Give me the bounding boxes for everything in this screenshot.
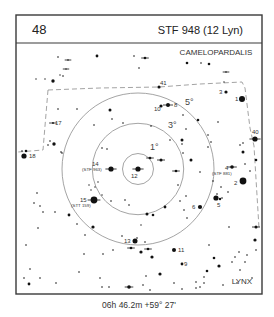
star-icon — [68, 214, 71, 217]
star-icon — [249, 170, 251, 172]
star-icon — [207, 146, 209, 148]
star-icon — [29, 268, 31, 270]
star-icon — [57, 108, 59, 110]
star-icon — [216, 193, 218, 195]
star-icon — [76, 223, 78, 225]
star-icon — [253, 238, 256, 241]
star-icon — [221, 197, 223, 199]
star-designation: (STF 881) — [212, 171, 232, 176]
labeled-stars: 1234(STF 881)56891011121314(STF 963)15(S… — [21, 80, 260, 267]
star-icon — [246, 254, 248, 256]
star-icon — [183, 209, 185, 211]
star-icon — [185, 195, 187, 197]
star-icon — [217, 264, 220, 267]
star-icon — [224, 90, 227, 93]
star-icon — [121, 235, 123, 237]
star-icon — [213, 195, 218, 200]
star-icon — [199, 171, 201, 173]
star-label: 18 — [29, 153, 36, 159]
star-icon — [49, 140, 51, 142]
star-icon — [255, 159, 258, 162]
star-icon — [28, 283, 31, 286]
chart-number: 48 — [32, 22, 46, 37]
star-icon — [227, 191, 229, 193]
star-icon — [109, 109, 112, 112]
star-icon — [136, 237, 138, 239]
ring-label: 3° — [168, 120, 177, 130]
star-icon — [206, 270, 209, 273]
star-icon — [234, 256, 236, 258]
star-icon — [91, 225, 94, 228]
star-icon — [96, 55, 99, 58]
star-designation: (STT 159) — [71, 203, 91, 208]
star-icon — [76, 108, 78, 110]
star-icon — [60, 151, 62, 153]
star-icon — [223, 81, 224, 82]
star-icon — [88, 184, 89, 185]
star-icon — [25, 244, 27, 246]
star-icon — [164, 206, 167, 209]
star-icon — [102, 253, 104, 255]
star-icon — [21, 153, 26, 158]
star-icon — [111, 118, 113, 120]
star-icon — [208, 63, 211, 66]
star-icon — [220, 186, 222, 188]
star-icon — [47, 144, 49, 146]
star-icon — [212, 180, 214, 182]
constellation-label: LYNX — [232, 277, 253, 286]
star-designation: (STF 963) — [82, 167, 102, 172]
star-icon — [169, 139, 171, 141]
star-icon — [124, 199, 126, 201]
star-icon — [133, 55, 135, 57]
star-icon — [39, 205, 41, 207]
star-label: 5 — [217, 202, 221, 208]
star-icon — [181, 139, 184, 142]
star-icon — [213, 257, 216, 260]
star-label: 13 — [124, 238, 131, 244]
star-icon — [84, 234, 86, 236]
star-icon — [186, 62, 189, 65]
star-icon — [94, 186, 95, 187]
star-icon — [239, 96, 245, 102]
star-icon — [106, 148, 108, 150]
star-icon — [219, 198, 221, 200]
star-icon — [37, 227, 39, 229]
star-label: 3 — [219, 89, 223, 95]
boundary-line — [18, 90, 48, 152]
star-label: 10 — [154, 106, 161, 112]
star-icon — [145, 275, 147, 277]
star-icon — [239, 269, 241, 271]
star-icon — [200, 62, 202, 64]
star-icon — [185, 128, 187, 130]
star-icon — [52, 142, 55, 145]
star-icon — [150, 255, 153, 258]
star-icon — [240, 178, 247, 185]
star-icon — [208, 244, 210, 246]
constellation-label: CAMELOPARDALIS — [180, 48, 253, 57]
star-icon — [101, 194, 102, 195]
star-icon — [177, 184, 179, 186]
star-label: 2 — [234, 180, 238, 186]
star-icon — [195, 281, 197, 283]
star-icon — [150, 125, 152, 127]
star-icon — [149, 289, 151, 291]
star-icon — [23, 277, 25, 279]
star-icon — [21, 150, 23, 152]
star-icon — [59, 74, 60, 75]
star-icon — [36, 192, 38, 194]
constellation-labels: CAMELOPARDALISLYNX — [180, 48, 253, 286]
star-icon — [172, 248, 176, 252]
star-icon — [83, 253, 85, 255]
star-icon — [35, 78, 36, 79]
star-icon — [203, 282, 205, 284]
star-icon — [139, 250, 142, 253]
star-icon — [62, 75, 64, 77]
star-icon — [190, 159, 193, 162]
star-icon — [244, 261, 246, 263]
star-label: 17 — [55, 120, 62, 126]
star-icon — [108, 286, 110, 288]
star-icon — [195, 287, 197, 289]
star-icon — [55, 282, 57, 284]
star-icon — [203, 276, 205, 278]
star-icon — [231, 261, 233, 263]
